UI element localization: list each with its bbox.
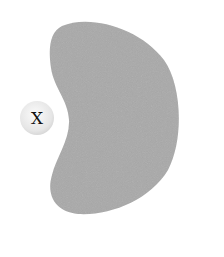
kidney-shape bbox=[50, 22, 179, 214]
marker-label: X bbox=[31, 108, 44, 128]
x-marker: X bbox=[20, 101, 54, 135]
diagram-canvas: X bbox=[0, 0, 224, 257]
diagram-svg: X bbox=[0, 0, 224, 257]
